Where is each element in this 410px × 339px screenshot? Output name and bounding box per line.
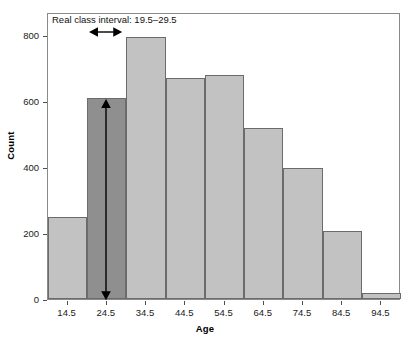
x-tick-mark <box>341 301 342 305</box>
x-tick-label: 54.5 <box>204 307 244 318</box>
histogram-bar <box>244 128 283 299</box>
x-tick-label: 34.5 <box>125 307 165 318</box>
interval-width-arrow <box>88 24 123 40</box>
x-tick-mark <box>224 301 225 305</box>
y-tick-label: 600 <box>13 97 39 107</box>
arrow-down-icon <box>101 291 111 300</box>
x-tick-mark <box>302 301 303 305</box>
arrow-up-icon <box>101 99 111 108</box>
x-tick-mark <box>263 301 264 305</box>
x-tick-label: 84.5 <box>321 307 361 318</box>
histogram-bar <box>323 231 362 299</box>
y-tick-label: 400 <box>13 163 39 173</box>
x-tick-mark <box>106 301 107 305</box>
x-tick-label: 24.5 <box>86 307 126 318</box>
arrow-left-icon <box>89 27 98 37</box>
x-tick-mark <box>145 301 146 305</box>
x-tick-mark <box>67 301 68 305</box>
x-tick-label: 94.5 <box>360 307 400 318</box>
x-tick-label: 74.5 <box>282 307 322 318</box>
x-axis-title: Age <box>0 323 410 334</box>
histogram-bar <box>166 78 205 299</box>
histogram-bar <box>362 293 401 299</box>
x-tick-label: 64.5 <box>243 307 283 318</box>
x-tick-label: 44.5 <box>164 307 204 318</box>
histogram-bar <box>205 75 244 299</box>
histogram-bar <box>48 217 87 299</box>
histogram-bar <box>283 168 322 299</box>
x-tick-label: 14.5 <box>47 307 87 318</box>
arrow-right-icon <box>113 27 122 37</box>
x-tick-mark <box>184 301 185 305</box>
y-tick-label: 200 <box>13 229 39 239</box>
x-tick-mark <box>380 301 381 305</box>
histogram-bar <box>126 37 165 299</box>
y-tick-label: 800 <box>13 31 39 41</box>
bar-height-arrow <box>98 98 114 301</box>
histogram-figure: Count 0200400600800 14.524.534.544.554.5… <box>0 0 410 339</box>
y-tick-mark <box>43 300 47 301</box>
y-tick-label: 0 <box>13 295 39 305</box>
